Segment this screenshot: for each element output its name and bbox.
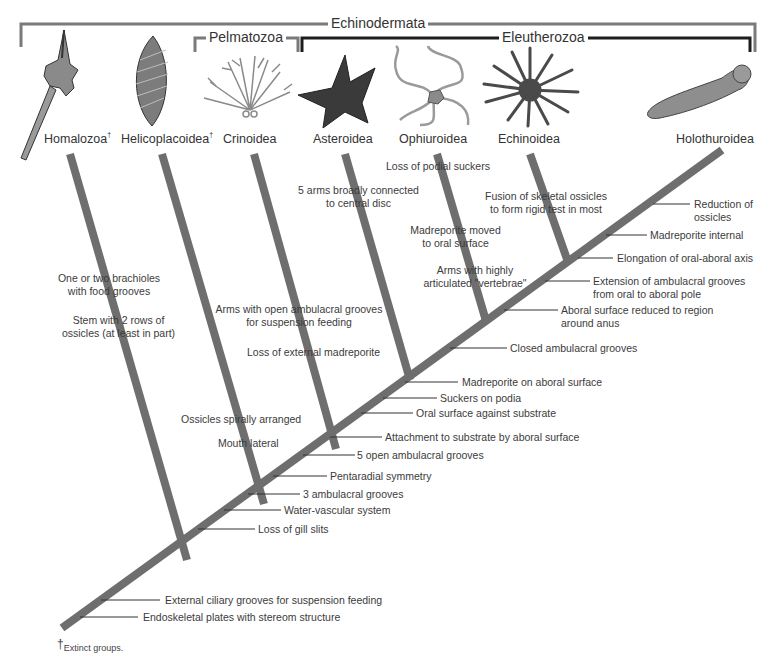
holothuroidea-illustration	[648, 65, 752, 119]
char-ophiuroidea-2: Madreporite moved to oral surface	[409, 224, 502, 249]
char-homalozoa-2: Stem with 2 rows of ossicles (at least i…	[60, 314, 177, 339]
taxon-helicoplacoidea: Helicoplacoidea†	[121, 132, 213, 146]
char-homalozoa-1: One or two brachioles with food grooves	[57, 272, 161, 297]
char-oral-surface-substrate: Oral surface against substrate	[416, 407, 556, 420]
char-madreporite-internal: Madreporite internal	[650, 229, 743, 242]
char-aboral-surface-reduced: Aboral surface reduced to region around …	[561, 304, 713, 329]
char-ophiuroidea-1: Loss of podial suckers	[386, 160, 490, 173]
char-ophiuroidea-3: Arms with highly articulated "vertebrae"	[419, 264, 531, 289]
char-reduction-of-ossicles: Reduction of ossicles	[694, 198, 753, 223]
main-trunk	[62, 150, 722, 628]
footnote: †Extinct groups.	[57, 640, 123, 654]
echinoidea-illustration	[484, 48, 578, 126]
branch-helicoplacoidea	[162, 154, 264, 504]
taxon-asteroidea: Asteroidea	[313, 132, 373, 146]
char-crinoidea-2: Loss of external madreporite	[247, 346, 380, 359]
char-pentaradial: Pentaradial symmetry	[330, 470, 432, 483]
taxon-homalozoa: Homalozoa†	[44, 132, 111, 146]
echinodermata-label: Echinodermata	[328, 15, 428, 31]
char-suckers-on-podia: Suckers on podia	[440, 392, 521, 405]
char-extension-ambulacral: Extension of ambulacral grooves from ora…	[593, 275, 745, 300]
branch-homalozoa	[70, 154, 187, 560]
asteroidea-illustration	[298, 55, 375, 128]
char-loss-gill-slits: Loss of gill slits	[258, 523, 329, 536]
taxon-echinoidea: Echinoidea	[498, 132, 560, 146]
char-attachment-aboral: Attachment to substrate by aboral surfac…	[385, 431, 579, 444]
taxon-holothuroidea: Holothuroidea	[676, 132, 754, 146]
char-echinoidea-1: Fusion of skeletal ossicles to form rigi…	[481, 190, 611, 215]
char-5-open-ambulacral: 5 open ambulacral grooves	[357, 449, 484, 462]
char-3-ambulacral: 3 ambulacral grooves	[303, 488, 403, 501]
char-endoskeletal-plates: Endoskeletal plates with stereom structu…	[143, 611, 340, 624]
char-closed-ambulacral: Closed ambulacral grooves	[510, 342, 637, 355]
char-helicoplacoidea-1: Ossicles spirally arranged	[181, 413, 301, 426]
eleutherozoa-label: Eleutherozoa	[499, 29, 588, 45]
pelmatozoa-label: Pelmatozoa	[206, 29, 286, 45]
char-madreporite-aboral: Madreporite on aboral surface	[462, 376, 602, 389]
char-asteroidea-1: 5 arms broadly connected to central disc	[296, 184, 421, 209]
taxon-ophiuroidea: Ophiuroidea	[399, 132, 467, 146]
ophiuroidea-illustration	[395, 46, 468, 125]
branches	[62, 150, 722, 628]
char-water-vascular: Water-vascular system	[284, 504, 390, 517]
helicoplacoidea-illustration	[136, 36, 168, 126]
char-external-ciliary: External ciliary grooves for suspension …	[165, 594, 382, 607]
char-crinoidea-1: Arms with open ambulacral grooves for su…	[213, 303, 385, 328]
char-elongation-oral-aboral: Elongation of oral-aboral axis	[617, 252, 753, 265]
leader-lines	[80, 204, 690, 617]
crinoidea-illustration	[204, 56, 292, 117]
taxon-crinoidea: Crinoidea	[223, 132, 277, 146]
char-helicoplacoidea-2: Mouth lateral	[218, 437, 279, 450]
